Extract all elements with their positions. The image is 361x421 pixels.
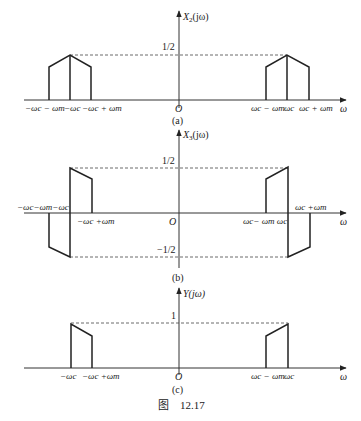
spectrum-right-neg-b: [288, 213, 310, 257]
sublabel-c: (c): [172, 384, 183, 396]
panel-c: Y(jω) 1 O ω −ωc −ωc +ωm ωc − ωm ωc (c): [24, 288, 347, 396]
figure-12-17: X2(jω) 1/2 O ω −ωc − ωm −ωc −ωc + ωm ωc …: [0, 0, 361, 421]
spectrum-left-pos-b: [70, 168, 92, 213]
tick-c-right-center: ωc: [284, 371, 294, 381]
panel-a: X2(jω) 1/2 O ω −ωc − ωm −ωc −ωc + ωm ωc …: [24, 11, 347, 127]
tick-b-right-outer: ωc +ωm: [295, 202, 327, 212]
tick-b-left-outer-center: −ωc−ωm−ωc: [17, 202, 69, 212]
tick-c-left-center: −ωc: [60, 371, 76, 381]
tick-a-left-outer: −ωc − ωm: [25, 103, 65, 113]
y-axis-label-c: Y(jω): [183, 288, 206, 300]
spectrum-right-pos-b: [266, 167, 288, 213]
y-axis-label-b: X3(jω): [182, 129, 209, 142]
neg-level-label-b: −1/2: [157, 244, 175, 255]
sublabel-b: (b): [172, 272, 184, 284]
tick-a-left-center: −ωc: [64, 103, 80, 113]
spectrum-left-neg-b: [49, 213, 70, 257]
spectrum-right-c: [266, 324, 288, 368]
level-label-c: 1: [171, 310, 176, 321]
level-label-a: 1/2: [162, 41, 175, 52]
omega-label-b: ω: [340, 216, 347, 227]
pos-level-label-b: 1/2: [162, 155, 175, 166]
tick-a-left-inner: −ωc + ωm: [82, 103, 122, 113]
panel-b: X3(jω) 1/2 −1/2 O ω −ωc−ωm−ωc −ωc +ωm ωc…: [17, 129, 347, 284]
figure-caption: 图 12.17: [158, 399, 205, 411]
origin-label-b: O: [169, 216, 176, 227]
tick-c-right-inner: ωc − ωm: [251, 371, 285, 381]
omega-label-c: ω: [340, 371, 347, 382]
spectrum-left-c: [71, 324, 92, 368]
tick-a-right-inner: ωc − ωm: [251, 103, 285, 113]
y-axis-label-a: X2(jω): [182, 11, 209, 24]
tick-a-right-outer: ωc + ωm: [299, 103, 333, 113]
tick-a-right-center: ωc: [284, 103, 294, 113]
tick-b-left-inner: −ωc +ωm: [77, 216, 115, 226]
sublabel-a: (a): [172, 115, 183, 127]
tick-c-left-inner: −ωc +ωm: [82, 371, 120, 381]
omega-label-a: ω: [340, 103, 347, 114]
origin-label-a: O: [175, 103, 182, 114]
origin-label-c: O: [175, 371, 182, 382]
tick-b-right-inner-center: ωc− ωm ωc: [243, 216, 287, 226]
